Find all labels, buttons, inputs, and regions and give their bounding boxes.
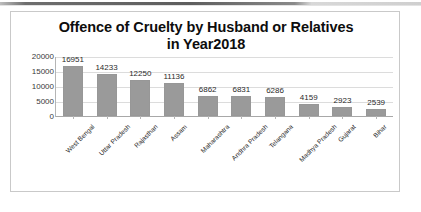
x-axis-category-label: Gujarat — [337, 123, 357, 143]
bar-slot: 6862 — [191, 57, 225, 116]
bar[interactable] — [299, 104, 319, 116]
bar-slot: 12250 — [123, 57, 157, 116]
y-axis-tick-label: 20000 — [14, 53, 54, 61]
x-label-slot: Telangana — [257, 119, 291, 179]
plot-wrapper: 20000150001000050000 1695114233122501113… — [11, 57, 401, 193]
x-label-slot: Andhra Pradesh — [224, 119, 258, 179]
scan-edge-artifact-secondary — [0, 5, 421, 6]
bar[interactable] — [164, 83, 184, 116]
bar-value-label: 6862 — [199, 86, 217, 94]
chart-title-line-2: in Year2018 — [11, 36, 401, 53]
y-axis-tick-label: 10000 — [14, 83, 54, 91]
bar[interactable] — [366, 109, 386, 116]
bar-slot: 16951 — [56, 57, 90, 116]
bar[interactable] — [97, 74, 117, 116]
bar-slot: 6831 — [225, 57, 259, 116]
x-label-slot: Bihar — [358, 119, 392, 179]
chart-title-line-1: Offence of Cruelty by Husband or Relativ… — [11, 19, 401, 36]
chart-container: Offence of Cruelty by Husband or Relativ… — [10, 11, 400, 192]
bar-value-label: 6286 — [266, 87, 284, 95]
x-axis-category-label: Assam — [169, 123, 188, 142]
x-label-slot: West Bengal — [55, 119, 89, 179]
x-label-slot: Uttar Pradesh — [89, 119, 123, 179]
bar-value-label: 2539 — [367, 99, 385, 107]
bar[interactable] — [332, 107, 352, 116]
bar[interactable] — [130, 80, 150, 116]
bar-slot: 2923 — [326, 57, 360, 116]
bar[interactable] — [63, 66, 83, 116]
y-axis-tick-label: 0 — [14, 113, 54, 121]
x-label-slot: Gujarat — [325, 119, 359, 179]
bar-value-label: 16951 — [62, 56, 84, 64]
bar-value-label: 4159 — [300, 94, 318, 102]
y-axis-tick-label: 5000 — [14, 98, 54, 106]
x-label-slot: Assam — [156, 119, 190, 179]
bar-slot: 4159 — [292, 57, 326, 116]
bar-value-label: 14233 — [95, 64, 117, 72]
bar-slot: 2539 — [359, 57, 393, 116]
bar-series: 1695114233122501113668626831628641592923… — [56, 57, 393, 116]
bar-slot: 14233 — [90, 57, 124, 116]
bar-slot: 6286 — [258, 57, 292, 116]
x-label-slot: Rajasthan — [122, 119, 156, 179]
plot-area: 1695114233122501113668626831628641592923… — [55, 57, 392, 117]
bar[interactable] — [231, 96, 251, 116]
x-axis-category-label: Bihar — [372, 123, 388, 139]
x-axis-category-labels: West BengalUttar PradeshRajasthanAssamMa… — [55, 119, 392, 179]
bar-value-label: 12250 — [129, 70, 151, 78]
x-label-slot: Maharashtra — [190, 119, 224, 179]
y-axis-tick-labels: 20000150001000050000 — [11, 57, 54, 127]
chart-title: Offence of Cruelty by Husband or Relativ… — [11, 19, 401, 53]
bar-value-label: 11136 — [163, 73, 184, 81]
bar[interactable] — [198, 96, 218, 116]
bar-value-label: 6831 — [232, 86, 250, 94]
y-axis-tick-label: 15000 — [14, 68, 54, 76]
bar-value-label: 2923 — [334, 97, 352, 105]
x-label-slot: Madhya Pradesh — [291, 119, 325, 179]
bar-slot: 11136 — [157, 57, 191, 116]
bar[interactable] — [265, 97, 285, 116]
